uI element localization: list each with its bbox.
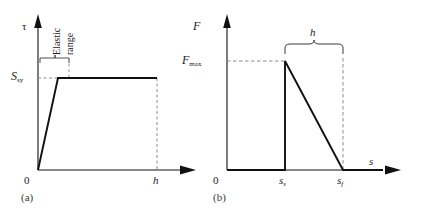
panel-a-x-axis-arrowhead bbox=[180, 166, 196, 175]
panel-b-origin-label: 0 bbox=[213, 174, 219, 186]
panel-a-graphics bbox=[0, 0, 216, 213]
panel-a-y-axis-label: τ bbox=[22, 20, 26, 32]
chart-panel-a: τ Elastic range Ssy 0 h (a) bbox=[0, 0, 216, 213]
panel-a-x-tick-label: h bbox=[153, 174, 159, 186]
panel-b-curve bbox=[227, 61, 383, 170]
panel-a-elastic-range-brace bbox=[40, 55, 69, 63]
panel-b-brace-label: h bbox=[310, 26, 316, 38]
panel-a-curve bbox=[38, 78, 157, 170]
panel-a-annotation-range: range bbox=[64, 33, 75, 55]
panel-b-x-axis-arrowhead bbox=[385, 166, 401, 175]
panel-b-graphics bbox=[215, 0, 431, 213]
panel-b-y-tick-label: Fmax bbox=[182, 53, 201, 68]
panel-a-caption: (a) bbox=[21, 191, 33, 203]
chart-panel-b: F Fmax h 0 ss sf s (b) bbox=[215, 0, 431, 213]
panel-a-y-tick-label: Ssy bbox=[11, 69, 23, 84]
panel-b-x-tick-1-subscript: s bbox=[283, 180, 286, 188]
panel-b-y-tick-subscript: max bbox=[189, 60, 201, 68]
panel-b-h-brace bbox=[285, 40, 343, 54]
panel-b-x-tick-2: sf bbox=[337, 174, 343, 186]
panel-a-y-axis-arrowhead bbox=[34, 14, 42, 28]
panel-b-y-axis-arrowhead bbox=[223, 14, 231, 28]
panel-b-x-axis-label: s bbox=[369, 155, 373, 167]
panel-b-x-tick-1: ss bbox=[279, 174, 286, 186]
panel-b-x-tick-2-subscript: f bbox=[341, 180, 343, 188]
panel-b-y-axis-label: F bbox=[193, 19, 200, 34]
panel-a-origin-label: 0 bbox=[24, 174, 30, 186]
panel-b-caption: (b) bbox=[213, 191, 226, 203]
panel-a-annotation-elastic: Elastic bbox=[51, 28, 62, 55]
panel-a-y-tick-subscript: sy bbox=[17, 76, 23, 84]
